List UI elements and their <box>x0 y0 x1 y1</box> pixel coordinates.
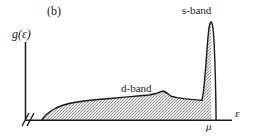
s-band-annotation: s-band <box>182 5 211 16</box>
figure-canvas <box>0 0 258 140</box>
d-band-annotation: d-band <box>121 83 152 94</box>
dos-filled-area <box>42 22 211 120</box>
panel-label: (b) <box>47 5 61 17</box>
density-of-states-figure: (b) g(ε) ε μ s-band d-band <box>0 0 258 140</box>
axis-break-icon <box>22 113 34 126</box>
mu-tick-label: μ <box>206 121 212 132</box>
y-axis-label: g(ε) <box>12 28 31 40</box>
x-axis-label: ε <box>235 108 239 119</box>
